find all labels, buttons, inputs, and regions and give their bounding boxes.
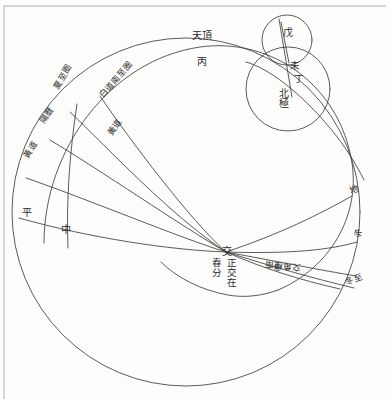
yellow-way-arc (26, 178, 356, 276)
label-ping: 平 (22, 208, 32, 218)
celestial-sphere-circle (12, 38, 360, 386)
pole-crossing-arc (246, 62, 364, 180)
label-jiao: 交 (222, 247, 232, 257)
horizon-great-circle (44, 46, 353, 290)
label-north-pole: 北極 (277, 88, 287, 116)
earth-arc (226, 196, 352, 252)
small-circle-wu (262, 15, 312, 65)
label-spring-equinox: 春分 (211, 258, 221, 284)
summer-solstice-arc (70, 112, 226, 252)
astronomical-diagram-canvas (0, 0, 390, 399)
label-ding: 丁 (294, 74, 304, 84)
label-zenith: 天頂 (192, 31, 212, 41)
label-wei: 未 (290, 61, 300, 71)
label-zhong: 中 (61, 225, 71, 235)
label-wu: 戊 (283, 28, 293, 38)
page-frame (4, 6, 386, 399)
label-true-node-at: 正交在 (226, 258, 236, 296)
label-bing: 丙 (197, 57, 207, 67)
diagram-page: 天頂 丙 戊 未 丁 北極 夏至圈 白道南至圈 陽曆 黃道 黃道 平 中 交 春… (0, 0, 390, 399)
